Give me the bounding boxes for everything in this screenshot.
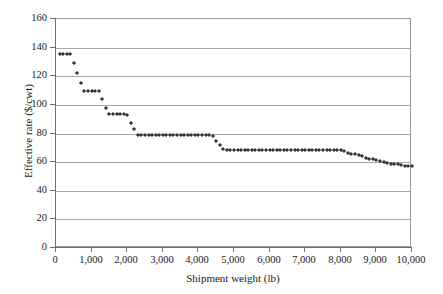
x-axis-tick [304, 247, 305, 252]
y-axis-tick [50, 190, 55, 191]
x-axis-tick [375, 247, 376, 252]
x-axis-tick [269, 247, 270, 252]
data-point [132, 127, 136, 131]
data-point [79, 81, 83, 85]
data-point [104, 106, 108, 110]
data-point [75, 71, 79, 75]
gridline-y [56, 162, 410, 163]
y-axis-tick-label: 160 [0, 13, 47, 23]
gridline-y [56, 48, 410, 49]
x-axis-tick [162, 247, 163, 252]
x-axis-tick [197, 247, 198, 252]
y-axis-tick [50, 161, 55, 162]
data-point [68, 52, 72, 56]
data-point [218, 143, 222, 147]
y-axis-tick [50, 18, 55, 19]
data-point [97, 88, 101, 92]
y-axis-tick [50, 75, 55, 76]
y-axis-tick [50, 47, 55, 48]
x-axis-tick [233, 247, 234, 252]
gridline-y [56, 105, 410, 106]
data-point [125, 113, 129, 117]
x-axis-tick [340, 247, 341, 252]
y-axis-tick-label: 80 [0, 128, 47, 138]
x-axis-tick [126, 247, 127, 252]
gridline-y [56, 134, 410, 135]
data-point [211, 134, 215, 138]
data-point [72, 61, 76, 65]
y-axis-tick-label: 40 [0, 185, 47, 195]
x-axis-tick [55, 247, 56, 252]
gridline-y [56, 219, 410, 220]
plot-area [55, 18, 411, 247]
y-axis-tick [50, 104, 55, 105]
y-axis-tick-label: 0 [0, 242, 47, 252]
x-axis-tick [91, 247, 92, 252]
x-axis-tick-label: 10,000 [381, 254, 441, 265]
chart-container: Effective rate ($/cwt) Shipment weight (… [0, 0, 443, 294]
y-axis-tick-label: 140 [0, 42, 47, 52]
data-point [100, 97, 104, 101]
gridline-y [56, 191, 410, 192]
y-axis-tick-label: 120 [0, 70, 47, 80]
x-axis-title: Shipment weight (lb) [55, 272, 411, 284]
data-point [129, 121, 133, 125]
y-axis-line [55, 18, 56, 248]
gridline-y [56, 76, 410, 77]
x-axis-tick [411, 247, 412, 252]
y-axis-tick [50, 133, 55, 134]
data-point [214, 139, 218, 143]
y-axis-tick-label: 100 [0, 99, 47, 109]
y-axis-tick-label: 60 [0, 156, 47, 166]
y-axis-tick-label: 20 [0, 213, 47, 223]
data-point [410, 164, 414, 168]
y-axis-tick [50, 218, 55, 219]
